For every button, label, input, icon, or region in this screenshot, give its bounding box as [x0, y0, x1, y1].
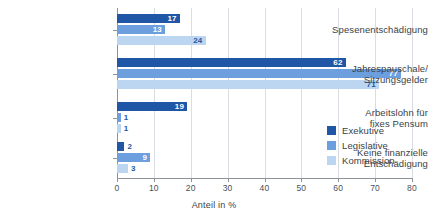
x-tick-label-20: 20 [186, 183, 196, 193]
x-tick-10 [154, 178, 155, 182]
category-label: Spesenentschädigung [316, 24, 428, 35]
bar-exekutive [117, 142, 124, 151]
x-tick-label-0: 0 [115, 183, 120, 193]
x-tick-label-70: 70 [370, 183, 380, 193]
legend-label: Legislative [342, 140, 388, 151]
category-label-line: Spesenentschädigung [316, 24, 428, 35]
category-tick [113, 30, 117, 31]
x-tick-label-30: 30 [223, 183, 233, 193]
bar-value-label: 3 [131, 164, 136, 174]
x-tick-30 [228, 178, 229, 182]
bar-value-label: 1 [124, 124, 129, 134]
legend-label: Exekutive [342, 125, 384, 136]
category-label-line: Arbeitslohn für [316, 107, 428, 118]
category-tick [113, 158, 117, 159]
bar-value-label: 19 [175, 102, 184, 112]
x-tick-40 [265, 178, 266, 182]
legend-swatch-icon [327, 156, 336, 165]
legend-item-exekutive: Exekutive [327, 123, 395, 138]
legend: ExekutiveLegislativeKommission [327, 123, 395, 168]
x-tick-80 [412, 178, 413, 182]
legend-label: Kommission [342, 155, 395, 166]
legend-item-legislative: Legislative [327, 138, 395, 153]
x-tick-50 [301, 178, 302, 182]
legend-item-kommission: Kommission [327, 153, 395, 168]
bar-exekutive [117, 58, 346, 67]
bar-kommission [117, 124, 121, 133]
bar-chart: 1713246277711911293 01020304050607080 An… [0, 0, 428, 218]
category-label: Jahrespauschale/Sitzungsgelder [316, 63, 428, 85]
bar-row: 24 [117, 36, 412, 45]
cropped-title-remnant [0, 0, 428, 5]
bar-value-label: 24 [193, 36, 202, 46]
bar-kommission [117, 164, 128, 173]
category-tick [113, 74, 117, 75]
bar-value-label: 1 [124, 113, 129, 123]
x-tick-label-50: 50 [296, 183, 306, 193]
legend-swatch-icon [327, 126, 336, 135]
bar-row: 17 [117, 14, 412, 23]
x-tick-label-60: 60 [333, 183, 343, 193]
category-label-line: Jahrespauschale/ [316, 63, 428, 74]
category-tick [113, 118, 117, 119]
bar-legislative [117, 113, 121, 122]
bar-value-label: 2 [127, 142, 132, 152]
legend-swatch-icon [327, 141, 336, 150]
x-tick-60 [338, 178, 339, 182]
x-tick-70 [375, 178, 376, 182]
x-tick-label-80: 80 [407, 183, 417, 193]
bar-value-label: 17 [167, 14, 176, 24]
x-tick-label-40: 40 [260, 183, 270, 193]
category-label-line: Sitzungsgelder [316, 74, 428, 85]
x-tick-20 [191, 178, 192, 182]
x-tick-label-10: 10 [149, 183, 159, 193]
bar-value-label: 13 [153, 25, 162, 35]
x-tick-0 [117, 178, 118, 182]
x-axis-title: Anteil in % [0, 200, 428, 210]
bar-value-label: 9 [143, 153, 148, 163]
